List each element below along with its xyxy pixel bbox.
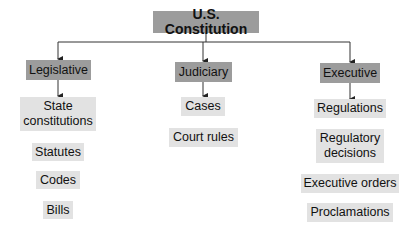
leaf-node-court-rules: Court rules [169, 128, 238, 147]
branch-node-legislative: Legislative [26, 60, 91, 80]
leaf-node-statutes: Statutes [32, 143, 84, 161]
leaf-node-proclamations: Proclamations [307, 203, 393, 222]
leaf-node-state-constitutions: State constitutions [20, 97, 96, 131]
leaf-node-cases: Cases [181, 97, 225, 116]
branch-node-judiciary: Judiciary [175, 62, 232, 82]
branch-node-executive: Executive [320, 63, 380, 83]
leaf-node-regulations: Regulations [314, 99, 386, 118]
leaf-node-regulatory-decisions: Regulatory decisions [316, 129, 384, 163]
root-node-us-constitution: U.S. Constitution [153, 11, 259, 33]
leaf-node-bills: Bills [43, 201, 73, 219]
leaf-node-executive-orders: Executive orders [301, 174, 399, 193]
leaf-node-codes: Codes [36, 171, 80, 189]
